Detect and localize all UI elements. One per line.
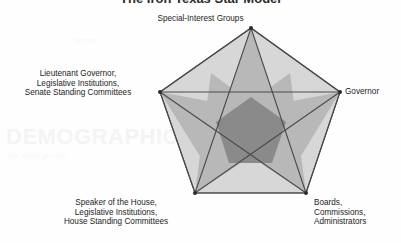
node-label-special-interest-groups: Special-Interest Groups	[0, 14, 401, 24]
node-label-speaker-of-the-house: Speaker of the House, Legislative Instit…	[42, 198, 190, 227]
vertex-dot-governor	[338, 90, 342, 94]
node-label-line: Boards,	[314, 198, 366, 208]
node-label-lieutenant-governor: Lieutenant Governor, Legislative Institu…	[2, 69, 154, 98]
node-label-boards-commissions: Boards, Commissions, Administrators	[314, 198, 366, 227]
node-label-line: House Standing Committees	[42, 217, 190, 227]
node-label-line: Administrators	[314, 217, 366, 227]
node-label-line: Senate Standing Committees	[2, 88, 154, 98]
node-label-line: Governor	[345, 87, 379, 97]
node-label-line: Legislative Institutions,	[42, 208, 190, 218]
vertex-dot-special-interest-groups	[249, 26, 253, 30]
figure-root: The Iron Texas Star Model DEMOGRAPHIC th…	[0, 0, 401, 243]
node-label-governor: Governor	[345, 87, 379, 97]
node-label-line: Lieutenant Governor,	[2, 69, 154, 79]
vertex-dot-speaker-of-the-house	[193, 191, 197, 195]
node-label-line: Commissions,	[314, 208, 366, 218]
vertex-dot-boards-commissions	[304, 191, 308, 195]
node-label-line: Special-Interest Groups	[0, 14, 401, 24]
node-label-line: Legislative Institutions,	[2, 79, 154, 89]
node-label-line: Speaker of the House,	[42, 198, 190, 208]
vertex-dot-lieutenant-governor	[158, 90, 162, 94]
